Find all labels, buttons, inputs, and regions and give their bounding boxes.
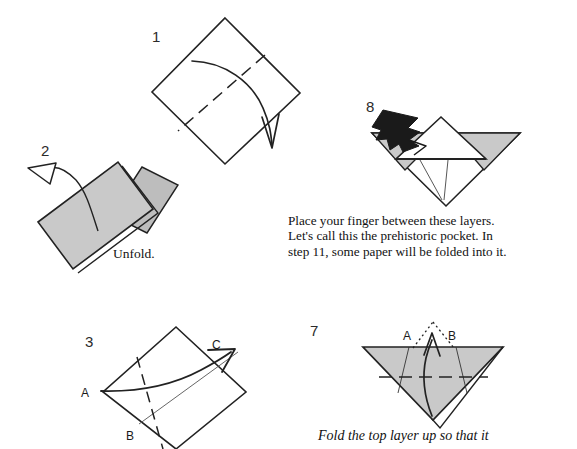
step2-unfold-arrowhead — [28, 163, 56, 184]
step-1-diagram — [152, 18, 300, 164]
step-3-diagram — [101, 327, 246, 449]
step3-paper-square — [103, 327, 246, 449]
step1-paper-square — [152, 18, 300, 164]
step-2-diagram — [28, 162, 178, 273]
origami-diagrams — [0, 0, 577, 449]
step7-paper-triangle — [363, 347, 503, 420]
step-7-diagram — [363, 322, 503, 428]
origami-instructions-page: 1 2 3 7 8 A B C A B Unfold. Place your f… — [0, 0, 577, 449]
step-8-diagram — [372, 110, 520, 206]
step8-black-insert-arrow — [372, 110, 420, 152]
